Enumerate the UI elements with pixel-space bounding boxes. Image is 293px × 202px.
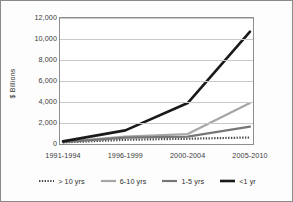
legend-label: 1-5 yrs bbox=[181, 177, 204, 186]
y-tick-label: 12,000 bbox=[17, 14, 57, 22]
plot-area bbox=[59, 17, 254, 145]
y-tick-label: 2,000 bbox=[17, 119, 57, 127]
legend-item[interactable]: > 10 yrs bbox=[39, 177, 85, 186]
legend-swatch bbox=[39, 178, 54, 184]
y-axis-title-text: $ Billions bbox=[9, 55, 16, 113]
legend-label: <1 yr bbox=[239, 177, 256, 186]
x-tick-label: 1996-1999 bbox=[95, 151, 155, 160]
y-tick-label: 0 bbox=[17, 140, 57, 148]
gridline bbox=[60, 18, 253, 19]
x-tick-label: 2000-2004 bbox=[158, 151, 218, 160]
gridline bbox=[60, 81, 253, 82]
gridline bbox=[60, 60, 253, 61]
y-tick-label: 10,000 bbox=[17, 35, 57, 43]
y-tick-label: 6,000 bbox=[17, 77, 57, 85]
legend-label: > 10 yrs bbox=[58, 177, 85, 186]
gridline bbox=[60, 123, 253, 124]
x-axis-tick-labels: 1991-19941996-19992000-20042005-2010 bbox=[59, 151, 254, 165]
legend-item[interactable]: 1-5 yrs bbox=[162, 177, 204, 186]
chart-figure: $ Billions 02,0004,0006,0008,00010,00012… bbox=[0, 0, 293, 202]
x-tick-label: 2005-2010 bbox=[220, 151, 280, 160]
gridline bbox=[60, 102, 253, 103]
legend-item[interactable]: 6-10 yrs bbox=[101, 177, 147, 186]
legend-swatch bbox=[101, 178, 116, 184]
chart-legend: > 10 yrs6-10 yrs1-5 yrs<1 yr bbox=[11, 173, 284, 189]
legend-label: 6-10 yrs bbox=[120, 177, 147, 186]
x-tick-label: 1991-1994 bbox=[33, 151, 93, 160]
legend-item[interactable]: <1 yr bbox=[220, 177, 256, 186]
gridline bbox=[60, 39, 253, 40]
legend-swatch bbox=[220, 178, 235, 184]
y-tick-label: 8,000 bbox=[17, 56, 57, 64]
series-line bbox=[63, 32, 250, 142]
y-axis-tick-labels: 02,0004,0006,0008,00010,00012,000 bbox=[17, 11, 57, 153]
legend-swatch bbox=[162, 178, 177, 184]
y-tick-label: 4,000 bbox=[17, 98, 57, 106]
